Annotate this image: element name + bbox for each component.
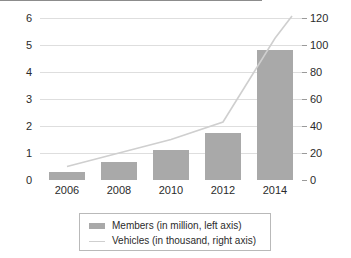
y-axis-left-tick: 3 bbox=[6, 94, 32, 105]
y-axis-right-tickmark bbox=[302, 99, 307, 100]
y-axis-right-tickmark bbox=[302, 126, 307, 127]
y-axis-right-tick: 60 bbox=[310, 94, 340, 105]
legend-line-swatch-icon bbox=[89, 238, 105, 244]
y-axis-right-tickmark bbox=[302, 153, 307, 154]
y-axis-right-tick: 40 bbox=[310, 121, 340, 132]
y-axis-left-tick: 5 bbox=[6, 40, 32, 51]
legend-item-vehicles: Vehicles (in thousand, right axis) bbox=[80, 233, 270, 248]
x-axis-tick-2006: 2006 bbox=[45, 184, 89, 196]
y-axis-right-tickmark bbox=[302, 72, 307, 73]
legend-item-members: Members (in million, left axis) bbox=[80, 218, 270, 233]
legend-bar-swatch-icon bbox=[89, 223, 105, 229]
chart-container: 6 5 4 3 2 1 0 120 100 80 60 40 20 0 2006… bbox=[0, 0, 351, 258]
legend-label-members: Members (in million, left axis) bbox=[112, 220, 241, 231]
x-axis-tick-2014: 2014 bbox=[253, 184, 297, 196]
y-axis-right-tick: 120 bbox=[310, 13, 340, 24]
y-axis-left-tick: 4 bbox=[6, 67, 32, 78]
y-axis-left-tick: 2 bbox=[6, 121, 32, 132]
y-axis-right-tick: 20 bbox=[310, 148, 340, 159]
y-axis-left-tick: 1 bbox=[6, 148, 32, 159]
x-axis-line bbox=[0, 0, 262, 1]
y-axis-right-tick: 80 bbox=[310, 67, 340, 78]
y-axis-right-tick: 100 bbox=[310, 40, 340, 51]
y-axis-right-tick: 0 bbox=[310, 175, 340, 186]
legend-label-vehicles: Vehicles (in thousand, right axis) bbox=[112, 235, 256, 246]
y-axis-right-tickmark bbox=[302, 45, 307, 46]
y-axis-right-tickmark bbox=[302, 18, 307, 19]
y-axis-left-tick: 6 bbox=[6, 13, 32, 24]
x-axis-tick-2010: 2010 bbox=[149, 184, 193, 196]
x-axis-tick-2008: 2008 bbox=[97, 184, 141, 196]
vehicles-line bbox=[40, 18, 302, 180]
y-axis-right-tickmark bbox=[302, 180, 307, 181]
chart-legend: Members (in million, left axis) Vehicles… bbox=[79, 213, 271, 251]
y-axis-left-tick: 0 bbox=[6, 175, 32, 186]
x-axis-tick-2012: 2012 bbox=[201, 184, 245, 196]
